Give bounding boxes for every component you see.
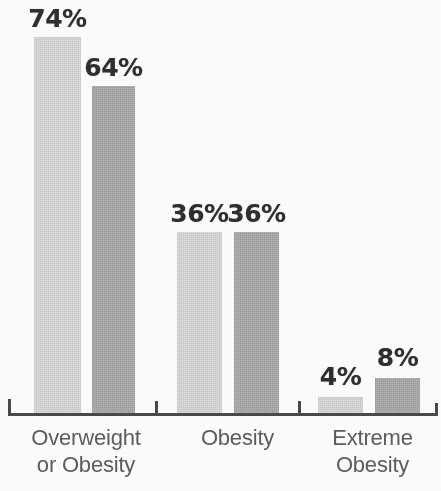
value-label-extreme-obesity-dark: 8% [369,345,426,370]
bar-fill [318,397,363,414]
category-label-overweight-or-obesity: Overweight or Obesity [6,424,166,478]
value-label-overweight-or-obesity-dark: 64% [77,55,150,80]
axis-tick-1 [155,401,158,414]
bar-overweight-or-obesity-light [34,37,81,414]
bar-fill [177,232,222,414]
bar-fill [375,378,420,414]
value-label-obesity-dark: 36% [220,201,293,226]
category-label-extreme-obesity: Extreme Obesity [305,424,440,478]
axis-tick-2 [298,401,301,414]
bar-extreme-obesity-light [318,397,363,414]
value-label-extreme-obesity-light: 4% [312,364,369,389]
bar-fill [92,86,135,414]
category-label-obesity: Obesity [165,424,310,451]
bar-obesity-light [177,232,222,414]
bar-fill [34,37,81,414]
axis-tick-start [8,399,11,414]
x-axis-line [8,413,438,416]
axis-tick-end [435,403,438,414]
plot-area: 74% 64% 36% 36% 4% 8% Overweight or Obe [0,0,441,491]
bar-fill [234,232,279,414]
bar-obesity-dark [234,232,279,414]
bar-chart: 74% 64% 36% 36% 4% 8% Overweight or Obe [0,0,441,491]
bar-overweight-or-obesity-dark [92,86,135,414]
bar-extreme-obesity-dark [375,378,420,414]
value-label-overweight-or-obesity-light: 74% [21,6,94,31]
